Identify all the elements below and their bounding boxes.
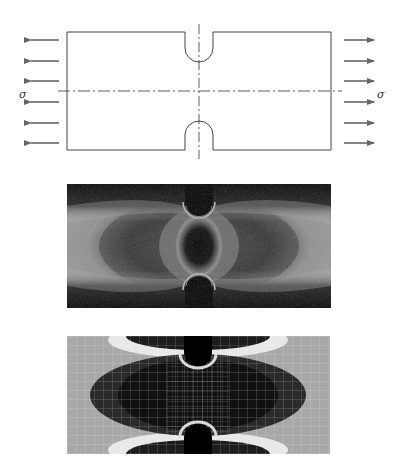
sigma-label-right: σ (377, 88, 385, 101)
fem-contour-image (67, 336, 330, 454)
notched-plate-schematic: σ σ (0, 0, 405, 170)
right-load-arrows (344, 40, 374, 143)
photoelastic-fringe-image (67, 184, 331, 308)
sigma-label-left: σ (19, 88, 27, 101)
top-notch-fem (184, 336, 212, 366)
left-load-arrows (31, 40, 59, 143)
bottom-notch-fem (184, 424, 212, 454)
